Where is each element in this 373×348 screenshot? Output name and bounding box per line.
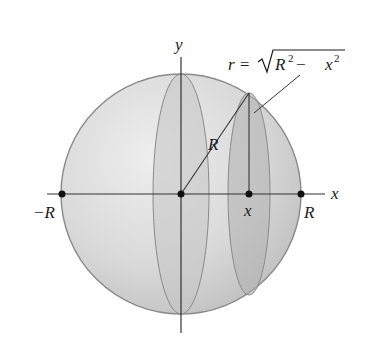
x-axis-label: x [330, 184, 339, 203]
point-x [246, 191, 253, 198]
y-axis-label: y [173, 35, 183, 54]
point-R [298, 191, 305, 198]
point-origin [178, 191, 185, 198]
formula-x: x [324, 55, 333, 74]
formula-exp2: 2 [334, 52, 340, 64]
neg-R-label: −R [33, 203, 55, 222]
x-point-label: x [243, 201, 252, 220]
formula-leader [254, 75, 300, 113]
formula-exp1: 2 [288, 52, 294, 64]
sphere-diagram: y x R −R R x r = R 2 − x 2 [0, 0, 373, 348]
radius-formula: r = R 2 − x 2 [228, 50, 345, 74]
formula-minus: − [296, 55, 306, 74]
pos-R-label: R [303, 203, 315, 222]
radius-label: R [207, 135, 219, 154]
formula-R: R [274, 55, 286, 74]
point-neg-R [59, 191, 66, 198]
formula-lhs: r = [228, 55, 250, 74]
